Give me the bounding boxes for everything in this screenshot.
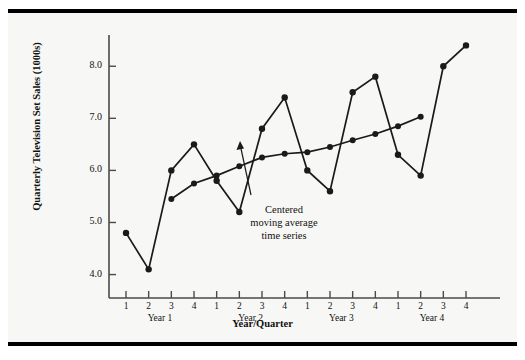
x-tick-label: 1	[115, 301, 137, 311]
y-axis-ticks	[109, 66, 116, 274]
x-tick-label: 4	[455, 301, 477, 311]
annotation-line-2: moving average	[224, 216, 344, 229]
year-group-label: Year 3	[311, 313, 371, 323]
x-tick-label: 3	[342, 301, 364, 311]
x-tick-label: 2	[410, 301, 432, 311]
annotation-line-1: Centered	[224, 203, 344, 216]
x-tick-label: 2	[138, 301, 160, 311]
x-tick-label: 2	[228, 301, 250, 311]
x-axis-ticks	[126, 291, 466, 298]
annotation-arrow-head	[237, 141, 245, 150]
moving-average-series	[168, 114, 423, 202]
x-tick-label: 3	[160, 301, 182, 311]
annotation-line-3: time series	[224, 229, 344, 242]
year-group-label: Year 2	[221, 313, 281, 323]
y-tick-label: 5.0	[68, 215, 102, 226]
chart-annotation: Centered moving average time series	[224, 203, 344, 242]
y-tick-label: 7.0	[68, 111, 102, 122]
x-tick-label: 3	[251, 301, 273, 311]
x-tick-label: 1	[206, 301, 228, 311]
figure-frame: Quarterly Television Set Sales (1000s) Y…	[8, 9, 517, 346]
x-tick-label: 4	[274, 301, 296, 311]
x-tick-label: 1	[387, 301, 409, 311]
year-group-label: Year 1	[130, 313, 190, 323]
y-tick-label: 6.0	[68, 163, 102, 174]
x-tick-label: 3	[432, 301, 454, 311]
x-tick-label: 4	[364, 301, 386, 311]
y-tick-label: 4.0	[68, 268, 102, 279]
y-tick-label: 8.0	[68, 59, 102, 70]
year-group-label: Year 4	[402, 313, 462, 323]
x-tick-label: 1	[296, 301, 318, 311]
chart-plot-area: Quarterly Television Set Sales (1000s) Y…	[8, 13, 517, 350]
y-axis-title: Quarterly Television Set Sales (1000s)	[31, 27, 42, 227]
x-tick-label: 4	[183, 301, 205, 311]
x-tick-label: 2	[319, 301, 341, 311]
